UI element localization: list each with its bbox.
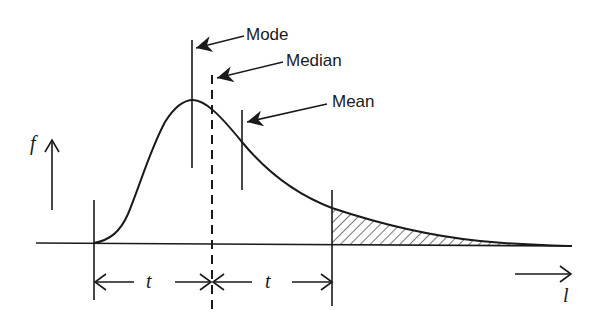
y-axis-arrow bbox=[45, 140, 59, 210]
mean-label: Mean bbox=[332, 92, 375, 111]
x-axis-arrow bbox=[515, 266, 571, 282]
left-interval-label: t bbox=[146, 270, 152, 292]
median-pointer-arrow bbox=[217, 62, 283, 78]
left-interval-dimension bbox=[95, 274, 211, 290]
skewed-distribution-diagram: f Mode Median Mean t t l bbox=[0, 0, 602, 326]
mode-label: Mode bbox=[246, 25, 289, 44]
mode-pointer-arrow bbox=[196, 36, 244, 48]
mean-pointer-arrow bbox=[247, 104, 327, 122]
right-interval-label: t bbox=[265, 270, 271, 292]
x-axis-label: l bbox=[563, 284, 569, 306]
right-interval-dimension bbox=[213, 274, 332, 290]
y-axis-label: f bbox=[30, 132, 38, 155]
median-label: Median bbox=[286, 51, 342, 70]
shaded-tail-region bbox=[332, 208, 560, 246]
